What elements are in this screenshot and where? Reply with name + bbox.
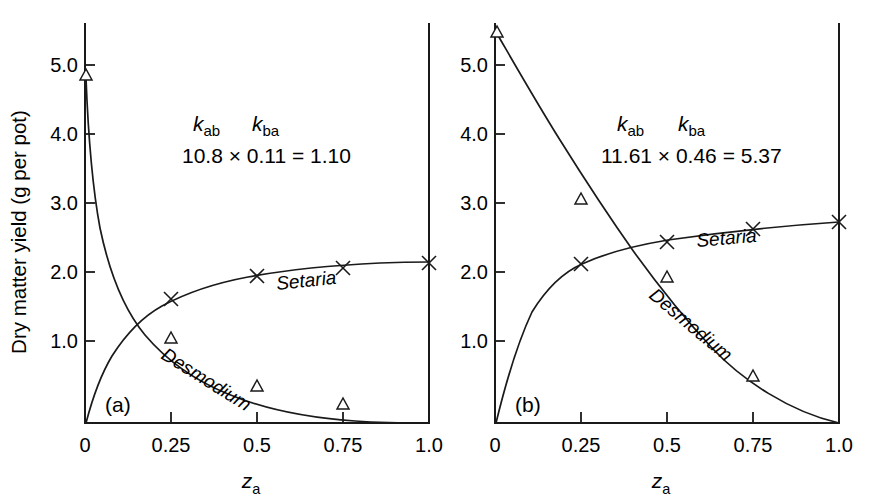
panel-a-xtick-label-0: 0	[79, 434, 90, 456]
panel-a-equation: 10.8 × 0.11 = 1.10	[182, 144, 351, 167]
panel-b-xtick-label-1: 1.0	[825, 434, 853, 456]
panel-a-setaria-curve	[86, 262, 429, 423]
panel-a-ytick-label-3: 3.0	[50, 192, 78, 214]
panel-b-desmodium-marker-3	[747, 370, 759, 381]
panel-a-desmodium-marker-0	[80, 69, 92, 80]
panel-b-ytick-label-3: 3.0	[460, 192, 488, 214]
panel-b-desmodium-marker-0	[491, 26, 503, 37]
panel-a-desmodium-label: Desmodium	[158, 344, 255, 416]
panel-a: 5.0 4.0 3.0 2.0 1.0 0 0.25 0.5 0.75 1.0 …	[50, 24, 443, 497]
panel-b-ytick-label-2: 2.0	[460, 261, 488, 283]
panel-a-kba-annotation: kba	[252, 112, 280, 139]
panel-a-ytick-label-4: 4.0	[50, 123, 78, 145]
panel-a-x-axis-title: za	[241, 469, 262, 497]
panel-b-xtick-label-05: 0.5	[653, 434, 681, 456]
panel-a-desmodium-marker-1	[165, 332, 177, 343]
panel-a-xtick-label-025: 0.25	[152, 434, 191, 456]
panel-b-desmodium-label: Desmodium	[645, 284, 736, 365]
panel-b-ytick-label-5: 5.0	[460, 54, 488, 76]
panel-a-kab-annotation: kab	[193, 112, 220, 139]
panel-a-label: (a)	[105, 393, 131, 416]
panel-b-ytick-label-1: 1.0	[460, 330, 488, 352]
panel-b-xtick-label-075: 0.75	[734, 434, 773, 456]
figure-container: 5.0 4.0 3.0 2.0 1.0 0 0.25 0.5 0.75 1.0 …	[0, 0, 872, 502]
panel-b-setaria-curve	[496, 222, 839, 423]
panel-b-equation: 11.61 × 0.46 = 5.37	[601, 144, 782, 167]
panel-b-xtick-label-025: 0.25	[562, 434, 601, 456]
panel-a-xtick-label-075: 0.75	[324, 434, 363, 456]
panel-b-label: (b)	[515, 393, 541, 416]
panel-b-desmodium-curve	[496, 32, 839, 423]
panel-a-desmodium-marker-3	[337, 398, 349, 409]
panel-b-kab-annotation: kab	[617, 112, 644, 139]
panel-b-desmodium-marker-1	[575, 193, 587, 204]
panel-b: 5.0 4.0 3.0 2.0 1.0 0 0.25 0.5 0.75 1.0 …	[460, 24, 853, 497]
panel-b-desmodium-marker-2	[661, 271, 673, 282]
panel-b-x-axis-title: za	[651, 469, 672, 497]
chart-svg: 5.0 4.0 3.0 2.0 1.0 0 0.25 0.5 0.75 1.0 …	[0, 0, 872, 502]
panel-b-setaria-marker-1	[574, 257, 588, 271]
panel-b-xtick-label-0: 0	[489, 434, 500, 456]
panel-b-setaria-marker-2	[660, 235, 674, 249]
panel-b-setaria-label: Setaria	[696, 225, 758, 251]
panel-a-ytick-label-5: 5.0	[50, 54, 78, 76]
panel-a-ytick-label-2: 2.0	[50, 261, 78, 283]
panel-a-xtick-label-1: 1.0	[415, 434, 443, 456]
panel-b-kba-annotation: kba	[678, 112, 706, 139]
panel-a-setaria-marker-3	[336, 261, 350, 275]
panel-a-desmodium-marker-2	[251, 380, 263, 391]
panel-a-xtick-label-05: 0.5	[243, 434, 271, 456]
y-axis-title: Dry matter yield (g per pot)	[7, 110, 30, 354]
panel-a-ytick-label-1: 1.0	[50, 330, 78, 352]
panel-b-ytick-label-4: 4.0	[460, 123, 488, 145]
